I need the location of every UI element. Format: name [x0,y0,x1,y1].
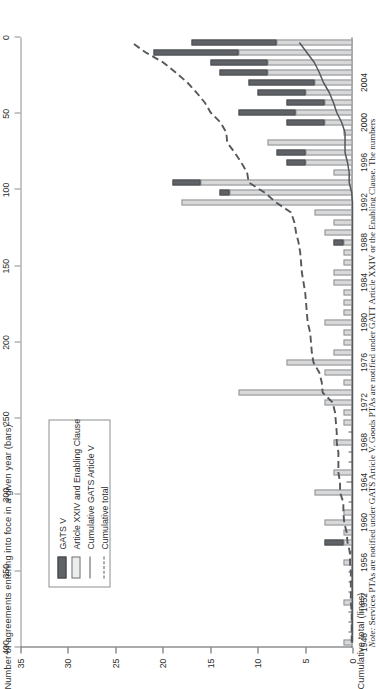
cumulative-axis-tick-label: 100 [0,182,10,197]
cumulative-axis-tick [14,494,20,495]
cumulative-axis-tick-label: 400 [0,640,10,655]
cumulative-axis-tick [14,646,20,647]
cumulative-total-line [131,42,351,642]
bars-axis-tick-label: 35 [15,658,25,668]
bars-axis-tick-label: 25 [110,658,120,668]
cumulative-axis-tick [14,36,20,37]
dashed-line-icon [99,556,108,578]
bars-axis-tick-label: 5 [300,658,310,663]
cumulative-axis-tick-label: 50 [0,108,10,118]
legend-label: Cumulative GATS Article V [85,445,95,549]
cumulative-axis-tick [14,570,20,571]
cumulative-axis-tick-label: 150 [0,258,10,273]
figure-note: Note: Services PTAs are notified under G… [366,1,376,647]
cumulative-axis-tick [14,112,20,113]
note-label: Note: [366,627,376,647]
bars-axis-tick [257,647,258,653]
bars-axis-tick-label: 10 [252,658,262,668]
gats-v-swatch-icon [57,556,66,578]
cumulative-gats-line [299,42,352,642]
bars-axis-tick [115,647,116,653]
legend-label: Article XXIV and Enabling Clause [71,418,81,549]
cumulative-axis-tick [14,189,20,190]
legend-item-article-xxiv: Article XXIV and Enabling Clause [69,428,82,578]
bars-axis-tick [305,647,306,653]
cumulative-axis-tick [14,341,20,342]
cumulative-axis-tick-label: 300 [0,487,10,502]
legend-label: Cumulative total [99,486,109,549]
bars-axis-tick-label: 0 [347,658,357,663]
bars-axis-tick [210,647,211,653]
pta-agreements-chart: Number of agreements entering into foce … [0,0,376,689]
cumulative-axis-tick [14,417,20,418]
note-text: Services PTAs are notified under GATS Ar… [366,118,376,627]
legend-label: GATS V [57,517,67,549]
bars-axis-tick [352,647,353,653]
cumulative-axis-tick [14,265,20,266]
legend-item-gats-v: GATS V [55,428,68,578]
chart-legend: GATS V Article XXIV and Enabling Clause … [48,419,110,587]
bars-axis-tick [20,647,21,653]
cumulative-axis-tick-label: 350 [0,563,10,578]
cumulative-axis-tick-label: 200 [0,335,10,350]
legend-item-cumulative-total: Cumulative total [97,428,110,578]
cumulative-axis-tick-label: 250 [0,411,10,426]
bars-axis-tick [162,647,163,653]
article-xxiv-swatch-icon [71,556,80,578]
plot-area: 05101520253035 050100150200250300350400 … [20,37,352,647]
solid-line-icon [85,556,94,578]
cumulative-axis-tick-label: 0 [0,35,10,40]
bars-axis-tick-label: 30 [62,658,72,668]
bars-axis-tick [67,647,68,653]
bars-axis-tick-label: 15 [205,658,215,668]
bars-axis-tick-label: 20 [157,658,167,668]
figure-rotated-canvas: Number of agreements entering into foce … [0,0,376,689]
legend-item-cumulative-gats: Cumulative GATS Article V [83,428,96,578]
